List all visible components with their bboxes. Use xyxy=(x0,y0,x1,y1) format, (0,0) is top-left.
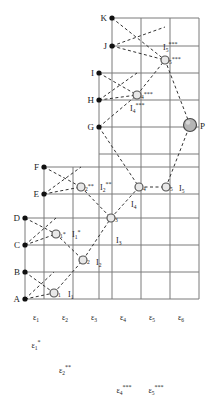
footnote-e5-star3: ε5*** xyxy=(148,384,163,396)
node-label-2: 2 xyxy=(87,259,90,265)
footnote-labels: ε1* ε2** ε4*** ε5*** xyxy=(31,339,163,396)
node-label-4-star3: 4*** xyxy=(141,91,153,100)
edge-n5s3-P xyxy=(165,60,190,125)
axis-tick-e5: ε5 xyxy=(149,313,155,323)
node-label-2-starstar: 2** xyxy=(85,183,94,192)
axis-tick-e6: ε6 xyxy=(178,313,184,323)
edge-C-n1s xyxy=(25,234,56,245)
source-dots xyxy=(22,15,114,301)
label-I: I xyxy=(91,68,94,78)
edge-D-n1s xyxy=(25,218,56,234)
diagram-canvas: A B C D E F G H I J K P 1 2 1* 3 2** 4 5… xyxy=(0,0,218,399)
axis-tick-e3: ε3 xyxy=(91,313,97,323)
node-label-5-star3: 5*** xyxy=(169,56,181,65)
edge-G-n4 xyxy=(99,127,139,187)
axis-tick-labels: ε1 ε2 ε3 ε4 ε5 ε6 xyxy=(33,313,184,323)
lattice-figure: A B C D E F G H I J K P 1 2 1* 3 2** 4 5… xyxy=(0,0,218,399)
node-4-star3[interactable] xyxy=(133,91,141,99)
terminal-highlight xyxy=(186,120,190,124)
label-P: P xyxy=(200,121,205,131)
edge-n3-n4 xyxy=(111,187,139,218)
label-B: B xyxy=(14,267,20,277)
edge-n1-n2 xyxy=(54,260,83,293)
node-label-3: 3 xyxy=(115,217,118,223)
dot-B xyxy=(22,269,27,274)
node-label-5: 5 xyxy=(170,186,173,192)
edge-n2-n3 xyxy=(83,218,111,260)
source-letter-labels: A B C D E F G H I J K xyxy=(14,13,108,304)
axis-tick-e1: ε1 xyxy=(33,313,39,323)
edge-E-cross xyxy=(44,167,81,194)
dot-K xyxy=(109,15,114,20)
interval-label-I3: I3 xyxy=(116,236,122,246)
dot-J xyxy=(109,43,114,48)
interval-label-I4-star3: I4*** xyxy=(130,102,144,114)
node-3[interactable] xyxy=(107,214,115,222)
interval-label-I2-starstar: I2** xyxy=(100,181,111,193)
label-G: G xyxy=(88,122,95,132)
node-2[interactable] xyxy=(79,256,87,264)
node-label-1-star: 1* xyxy=(60,231,66,239)
edge-A-cross xyxy=(25,272,54,299)
dot-G xyxy=(96,124,101,129)
node-5-star3[interactable] xyxy=(161,56,169,64)
axis-tick-e4: ε4 xyxy=(120,313,126,323)
axis-tick-e2: ε2 xyxy=(62,313,68,323)
interval-label-I1-star: I1* xyxy=(72,229,80,240)
node-4[interactable] xyxy=(135,183,143,191)
interval-label-I5: I5 xyxy=(179,184,185,194)
dot-E xyxy=(41,191,46,196)
label-K: K xyxy=(101,13,108,23)
edge-K-n5s3 xyxy=(112,18,165,60)
interval-label-I4: I4 xyxy=(131,200,137,210)
dot-C xyxy=(22,242,27,247)
node-1[interactable] xyxy=(50,289,58,297)
footnote-e4-star3: ε4*** xyxy=(116,384,131,396)
label-H: H xyxy=(88,95,95,105)
label-F: F xyxy=(34,162,39,172)
dot-F xyxy=(41,164,46,169)
label-D: D xyxy=(14,213,21,223)
edge-H-cross xyxy=(99,73,137,100)
edge-J-n5s3 xyxy=(112,46,165,60)
dot-H xyxy=(96,97,101,102)
node-number-labels: 1 2 1* 3 2** 4 5 4*** 5*** xyxy=(58,56,181,298)
label-A: A xyxy=(14,294,21,304)
edge-F-n2ss xyxy=(44,167,81,187)
edge-B-n1 xyxy=(25,272,54,293)
terminal-circle[interactable] xyxy=(184,119,197,132)
edge-J-cross xyxy=(112,27,165,46)
terminal-node-P[interactable] xyxy=(184,119,197,132)
label-C: C xyxy=(14,240,20,250)
footnote-e2-starstar: ε2** xyxy=(59,364,71,376)
edge-I-n4s3 xyxy=(99,73,137,95)
dot-D xyxy=(22,215,27,220)
node-2-starstar[interactable] xyxy=(77,183,85,191)
node-5[interactable] xyxy=(162,183,170,191)
dot-I xyxy=(96,70,101,75)
label-J: J xyxy=(103,41,107,51)
node-label-4: 4 xyxy=(143,186,146,192)
node-label-1: 1 xyxy=(58,292,61,298)
node-1-star[interactable] xyxy=(52,230,60,238)
dot-A xyxy=(22,296,27,301)
footnote-e1-star: ε1* xyxy=(31,339,40,351)
label-E: E xyxy=(34,189,40,199)
